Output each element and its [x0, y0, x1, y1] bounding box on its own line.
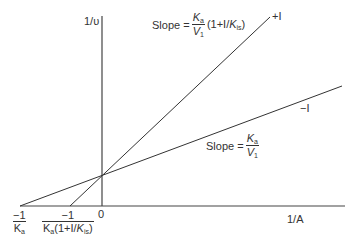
slope-fraction: Ka V1 — [246, 133, 259, 159]
x-axis-label: 1/A — [287, 214, 304, 225]
y-axis-label: 1/υ — [84, 16, 99, 27]
intercept-label-no-inhibitor: −1 Ka — [12, 210, 27, 235]
plus-i-label: +I — [272, 11, 281, 22]
slope-fraction: Ka V1 — [192, 12, 205, 38]
origin-label: 0 — [98, 209, 104, 220]
slope-label-uninhibited: Slope = Ka V1 — [206, 133, 259, 159]
minus-i-label: −I — [300, 103, 309, 114]
line-with-inhibitor — [70, 17, 270, 206]
slope-label-inhibited: Slope = Ka V1 (1+I/Kis) — [152, 12, 245, 38]
line-without-inhibitor — [20, 86, 342, 206]
intercept-label-inhibitor: −1 Ka(1+I/Kis) — [42, 210, 94, 235]
